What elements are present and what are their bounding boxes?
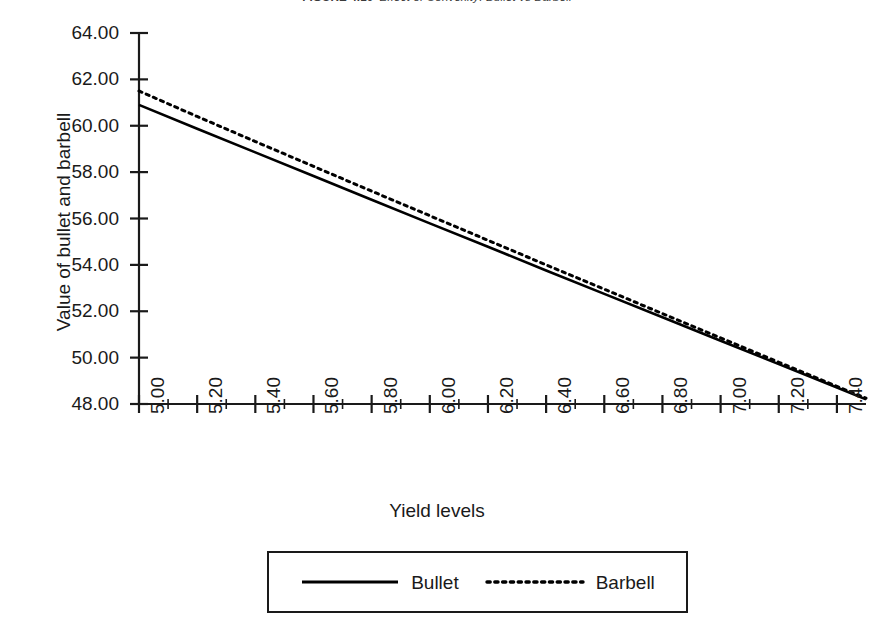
x-tick-label: 7.00	[730, 334, 749, 414]
chart-legend: BulletBarbell	[267, 551, 688, 613]
legend-line-sample-barbell	[485, 575, 585, 589]
x-tick-label: 6.00	[439, 334, 458, 414]
x-tick-label: 7.40	[846, 334, 865, 414]
x-tick-label: 5.80	[381, 334, 400, 414]
x-tick-label: 6.80	[671, 334, 690, 414]
legend-line-sample-bullet	[300, 575, 400, 589]
x-tick-label: 6.40	[555, 334, 574, 414]
x-tick-label: 5.00	[148, 334, 167, 414]
x-tick-label: 5.20	[206, 334, 225, 414]
x-tick-label: 7.20	[788, 334, 807, 414]
legend-label: Barbell	[596, 573, 655, 592]
x-axis-tick-labels: 5.005.205.405.605.806.006.206.406.606.80…	[0, 0, 874, 628]
legend-entry[interactable]: Barbell	[485, 573, 655, 592]
legend-label: Bullet	[411, 573, 459, 592]
legend-entry[interactable]: Bullet	[300, 573, 459, 592]
x-tick-label: 6.60	[613, 334, 632, 414]
x-tick-label: 5.40	[264, 334, 283, 414]
x-axis-title: Yield levels	[0, 500, 874, 522]
x-tick-label: 5.60	[322, 334, 341, 414]
x-tick-label: 6.20	[497, 334, 516, 414]
legend-entries: BulletBarbell	[269, 553, 686, 611]
